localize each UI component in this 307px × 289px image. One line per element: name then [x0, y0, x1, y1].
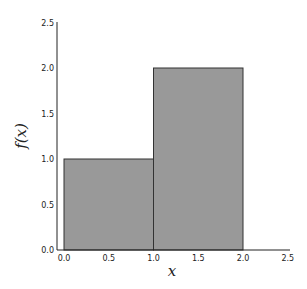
- x-tick-label: 2.5: [281, 254, 294, 263]
- y-tick-label: 2.0: [41, 64, 54, 73]
- bars: [64, 68, 243, 250]
- x-axis-label: x: [168, 262, 177, 280]
- y-tick-label: 2.5: [41, 19, 54, 28]
- y-tick-label: 1.5: [41, 110, 54, 119]
- x-tick-label: 0.5: [102, 254, 115, 263]
- x-tick-label: 2.0: [237, 254, 250, 263]
- y-tick-label: 0.0: [41, 246, 54, 255]
- y-tick-labels: 0.00.51.01.52.02.5: [41, 19, 54, 256]
- y-tick-label: 1.0: [41, 155, 54, 164]
- chart: 0.00.51.01.52.02.5 0.00.51.01.52.02.5 x …: [0, 0, 307, 289]
- y-axis-label: f(x): [12, 123, 30, 150]
- x-tick-label: 1.5: [192, 254, 205, 263]
- x-tick-label: 1.0: [147, 254, 160, 263]
- y-tick-label: 0.5: [41, 201, 54, 210]
- x-tick-label: 0.0: [58, 254, 71, 263]
- bar-0: [64, 159, 154, 250]
- bar-1: [154, 68, 244, 250]
